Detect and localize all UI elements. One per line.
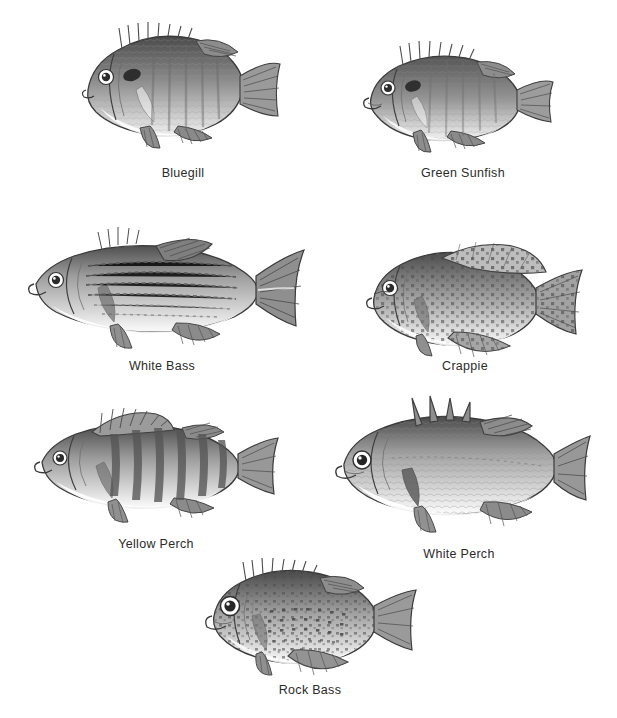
label-rock-bass: Rock Bass [200, 683, 420, 697]
figure-white-bass [22, 222, 312, 352]
label-green-sunfish: Green Sunfish [340, 166, 586, 180]
figure-white-perch [330, 396, 592, 536]
crappie-drawing [360, 238, 590, 363]
yellow-perch-drawing [30, 400, 285, 525]
label-yellow-perch: Yellow Perch [30, 537, 282, 551]
figure-yellow-perch [30, 400, 285, 525]
label-white-bass: White Bass [22, 359, 302, 373]
figure-rock-bass [200, 558, 425, 678]
white-perch-drawing [330, 396, 592, 536]
rock-bass-drawing [200, 558, 425, 678]
figure-green-sunfish [355, 40, 560, 158]
figure-bluegill [70, 20, 285, 150]
fish-illustration-plate: Bluegill [0, 0, 617, 718]
label-crappie: Crappie [360, 359, 570, 373]
bluegill-drawing [70, 20, 285, 150]
figure-crappie [360, 238, 590, 363]
green-sunfish-drawing [355, 40, 560, 158]
white-bass-drawing [22, 222, 312, 352]
label-bluegill: Bluegill [0, 166, 366, 180]
